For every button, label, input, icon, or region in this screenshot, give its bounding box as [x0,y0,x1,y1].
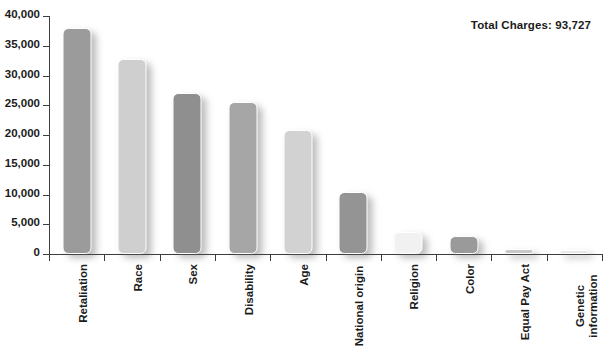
x-axis-tick-mark [160,254,161,261]
x-axis-label-text: Color [464,264,477,294]
bar[interactable] [449,236,478,254]
x-axis-label-text: Equal Pay Act [519,264,532,340]
y-axis-tick-label: 40,000 [5,8,40,20]
bar-slot [436,16,491,254]
bar-slot [49,16,104,254]
bar-slot [160,16,215,254]
x-axis-tick-mark [104,254,105,261]
bar[interactable] [394,232,423,254]
bar-fill [451,238,476,252]
x-axis-tick-mark [436,254,437,261]
x-axis-tick-mark [491,254,492,261]
bar[interactable] [505,249,534,254]
x-axis-label-text: Retaliation [77,264,90,323]
x-axis-label: Race [104,264,159,348]
y-axis-tick-label: 10,000 [5,187,40,199]
bar-fill [285,132,310,252]
x-axis-label: Color [436,264,491,348]
y-axis-tick-label: 30,000 [5,68,40,80]
bar-fill [119,61,144,252]
plot-area [49,16,605,254]
x-axis-tick-mark [326,254,327,261]
x-axis-label: Disability [215,264,270,348]
y-axis-tick-label: 20,000 [5,127,40,139]
x-axis-label: Genetic information [547,264,602,348]
y-axis-tick-label: 25,000 [5,97,40,109]
y-axis-tick-label: 0 [34,246,40,258]
x-axis-label-text: Age [298,264,311,286]
bar-slot [270,16,325,254]
bar[interactable] [62,28,91,254]
x-axis-tick-mark [381,254,382,261]
bar-slot [381,16,436,254]
y-axis-tick-label: 5,000 [11,216,40,228]
bar-fill [507,251,532,252]
bar[interactable] [173,93,202,254]
x-axis-label-text: Disability [243,264,256,315]
bar[interactable] [560,250,589,254]
bar-slot [547,16,602,254]
x-axis-label-text: Sex [187,264,200,284]
bar[interactable] [283,130,312,254]
bar-fill [175,95,200,252]
bar-chart: Total Charges: 93,727 05,00010,00015,000… [0,0,605,351]
x-axis-tick-mark [270,254,271,261]
bar-slot [491,16,546,254]
bar[interactable] [339,192,368,254]
bar-slot [215,16,270,254]
x-axis-tick-mark [215,254,216,261]
x-axis-tick-mark [602,254,603,261]
x-axis-tick-mark [547,254,548,261]
x-axis-label: National origin [326,264,381,348]
y-axis-tick-label: 35,000 [5,38,40,50]
x-axis-label: Retaliation [49,264,104,348]
x-axis-label: Religion [381,264,436,348]
x-axis-label: Sex [160,264,215,348]
bar-slot [104,16,159,254]
x-axis-label: Age [270,264,325,348]
x-axis-label: Equal Pay Act [491,264,546,348]
x-axis-tick-mark [49,254,50,261]
x-axis-label-text: Race [132,264,145,292]
x-axis-label-text: Religion [408,264,421,309]
bar-fill [64,30,89,252]
bar-fill [230,104,255,252]
bar-fill [396,234,421,252]
bar-slot [326,16,381,254]
bar[interactable] [228,102,257,254]
bar[interactable] [117,59,146,254]
x-axis-label-text: Genetic information [574,264,599,348]
x-axis-label-text: National origin [353,264,366,348]
bar-fill [341,194,366,252]
y-axis-tick-label: 15,000 [5,157,40,169]
